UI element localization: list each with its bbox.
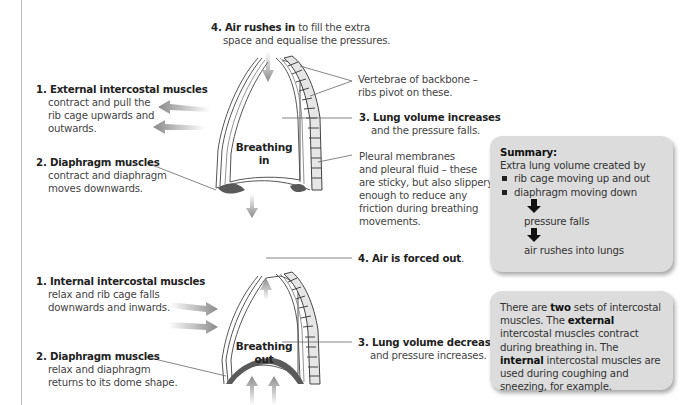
label-lung-volume-decreases: 3. Lung volume decreases and pressure in… [358, 336, 503, 362]
label-internal-intercostal-heading: 1. Internal intercostal muscles [36, 276, 205, 287]
label-external-line: rib cage upwards and [36, 109, 208, 122]
label-diaphragm-in-line: contract and diaphragm [36, 169, 167, 182]
intercostal-note-box: There are two sets of intercostal muscle… [490, 291, 673, 390]
label-volume-decreases-line2: and pressure increases. [358, 349, 503, 362]
label-diaphragm-in-heading: 2. Diaphragm muscles [36, 157, 160, 168]
breathing-out-title: Breathing out [234, 340, 294, 366]
breathing-out-title-line1: Breathing [234, 340, 294, 353]
summary-intro: Extra lung volume created by [500, 159, 663, 172]
summary-step-pressure: pressure falls [500, 215, 663, 228]
label-volume-increases-line2: and the pressure falls. [359, 124, 501, 137]
note-bold-two: two [550, 302, 571, 313]
label-volume-increases-heading: 3. Lung volume increases [359, 112, 501, 123]
label-pleural-line: enough to reduce any [359, 189, 493, 202]
label-air-rushes-in-heading: 4. Air rushes in [211, 22, 295, 33]
note-bold-external: external [568, 315, 614, 326]
breathing-in-title: Breathing in [234, 141, 294, 167]
summary-bullet: rib cage moving up and out [500, 172, 663, 185]
label-air-rushes-in: 4. Air rushes in to fill the extra space… [211, 21, 390, 47]
label-pleural-line: and pleural fluid – these [359, 163, 493, 176]
breathing-in-title-line1: Breathing [234, 141, 294, 154]
label-air-forced-out: 4. Air is forced out. [358, 252, 464, 265]
label-vertebrae-line: Vertebrae of backbone – [358, 73, 478, 86]
summary-title: Summary: [500, 146, 663, 159]
label-external-line: outwards. [36, 122, 208, 135]
label-diaphragm-in-line: moves downwards. [36, 182, 167, 195]
label-pleural-line: friction during breathing [359, 202, 493, 215]
label-diaphragm-in: 2. Diaphragm muscles contract and diaphr… [36, 156, 167, 195]
label-air-rushes-in-line2: space and equalise the pressures. [211, 34, 390, 47]
label-lung-volume-increases: 3. Lung volume increases and the pressur… [359, 111, 501, 137]
label-vertebrae-line: ribs pivot on these. [358, 86, 478, 99]
label-diaphragm-out-line: relax and diaphragm [36, 363, 177, 376]
summary-bullet: diaphragm moving down [500, 186, 663, 199]
label-diaphragm-out-heading: 2. Diaphragm muscles [36, 351, 160, 362]
label-external-intercostal-heading: 1. External intercostal muscles [36, 84, 208, 95]
note-text: intercostal muscles contract during brea… [500, 328, 639, 352]
label-pleural-line: Pleural membranes [359, 150, 493, 163]
label-air-forced-out-heading: 4. Air is forced out [358, 253, 461, 264]
label-external-intercostal: 1. External intercostal muscles contract… [36, 83, 208, 135]
lung-breathing-in [153, 52, 322, 218]
label-diaphragm-out: 2. Diaphragm muscles relax and diaphragm… [36, 350, 177, 389]
label-air-rushes-in-text: to fill the extra [295, 22, 370, 33]
note-bold-internal: internal [500, 355, 544, 366]
label-pleural-line: movements. [359, 215, 493, 228]
label-diaphragm-out-line: returns to its dome shape. [36, 376, 177, 389]
breathing-out-title-line2: out [234, 353, 294, 366]
summary-bullets: rib cage moving up and out diaphragm mov… [500, 172, 663, 198]
summary-box: Summary: Extra lung volume created by ri… [490, 136, 673, 272]
summary-step-air: air rushes into lungs [500, 244, 663, 257]
label-external-line: contract and pull the [36, 96, 208, 109]
label-pleural-line: are sticky, but also slippery [359, 176, 493, 189]
label-air-forced-out-period: . [461, 253, 464, 264]
label-vertebrae: Vertebrae of backbone – ribs pivot on th… [358, 73, 478, 99]
label-volume-decreases-heading: 3. Lung volume decreases [358, 337, 503, 348]
label-internal-line: relax and rib cage falls [36, 288, 205, 301]
label-pleural-membranes: Pleural membranes and pleural fluid – th… [359, 150, 493, 228]
label-internal-intercostal: 1. Internal intercostal muscles relax an… [36, 275, 205, 314]
label-internal-line: downwards and inwards. [36, 301, 205, 314]
breathing-in-title-line2: in [234, 154, 294, 167]
note-text: There are [500, 302, 550, 313]
